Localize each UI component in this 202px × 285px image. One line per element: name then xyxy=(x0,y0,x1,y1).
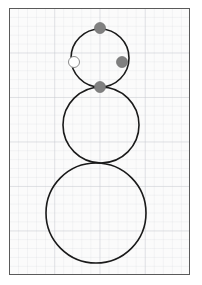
base-circle xyxy=(46,163,146,263)
figure-root xyxy=(0,0,202,285)
marker-left xyxy=(69,57,80,68)
marker-top xyxy=(95,23,106,34)
marker-right xyxy=(117,57,128,68)
plot-canvas xyxy=(9,8,190,275)
marker-bottom xyxy=(95,82,106,93)
markers-group xyxy=(69,23,128,93)
torso-circle xyxy=(63,87,139,163)
circles-group xyxy=(46,29,146,263)
plot-frame xyxy=(9,8,190,275)
